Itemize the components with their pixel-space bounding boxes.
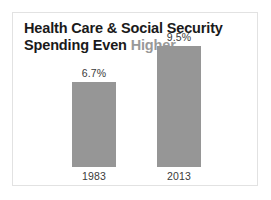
plot-area: 6.7% 1983 9.5% 2013 xyxy=(13,13,259,187)
bar-group-1983: 6.7% 1983 xyxy=(72,82,116,167)
bar-category-label: 2013 xyxy=(145,170,213,182)
bar-category-label: 1983 xyxy=(60,170,128,182)
bar-value-label: 9.5% xyxy=(147,31,211,43)
bar-rect xyxy=(157,46,201,167)
bar-group-2013: 9.5% 2013 xyxy=(157,46,201,167)
chart-card: Health Care & Social Security Spending E… xyxy=(12,12,258,186)
bar-rect xyxy=(72,82,116,167)
bar-value-label: 6.7% xyxy=(62,67,126,79)
